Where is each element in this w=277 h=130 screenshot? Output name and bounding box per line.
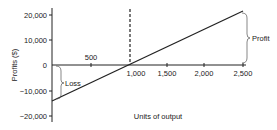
y-axis-title: Profits ($) — [10, 48, 19, 81]
loss-label: Loss — [65, 79, 81, 88]
x-tick-label: 500 — [85, 53, 98, 62]
profit-chart: 20,000 10,000 0 −10,000 −20,000 Profits … — [0, 0, 277, 130]
profit-brace — [242, 13, 250, 63]
loss-brace — [56, 66, 64, 99]
y-tick-label: 10,000 — [24, 36, 47, 45]
x-tick-label: 1,000 — [127, 69, 146, 78]
y-tick-label: 20,000 — [24, 11, 47, 20]
profit-label: Profit — [252, 34, 270, 43]
y-tick-label: −10,000 — [20, 87, 47, 96]
y-tick-label: 0 — [43, 61, 47, 70]
x-tick-label: 1,500 — [158, 69, 177, 78]
x-tick-label: 2,500 — [234, 69, 253, 78]
x-axis-title: Units of output — [134, 112, 183, 121]
x-tick-label: 2,000 — [195, 69, 214, 78]
y-tick-label: −20,000 — [20, 112, 47, 121]
